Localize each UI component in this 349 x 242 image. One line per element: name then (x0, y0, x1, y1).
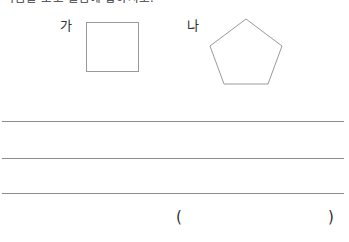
answer-close-paren: ) (328, 209, 334, 226)
square-shape (86, 22, 139, 72)
figure-label-ga: 가 (60, 18, 72, 33)
pentagon-icon (208, 16, 284, 86)
worksheet-page: 다음을 보고 물음에 답하시오. 가 나 ( ) (0, 0, 349, 242)
answer-line-2[interactable] (2, 158, 344, 159)
worksheet-prompt: 다음을 보고 물음에 답하시오. (4, 0, 154, 6)
answer-line-1[interactable] (2, 121, 344, 122)
answer-open-paren: ( (176, 209, 182, 226)
pentagon-shape (208, 16, 284, 86)
answer-line-3[interactable] (2, 193, 344, 194)
prompt-clip: 다음을 보고 물음에 답하시오. (0, 0, 349, 9)
figure-label-na: 나 (187, 18, 199, 33)
